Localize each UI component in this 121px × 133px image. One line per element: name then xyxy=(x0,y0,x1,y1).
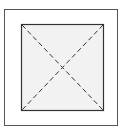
image-placeholder-icon xyxy=(0,0,121,133)
